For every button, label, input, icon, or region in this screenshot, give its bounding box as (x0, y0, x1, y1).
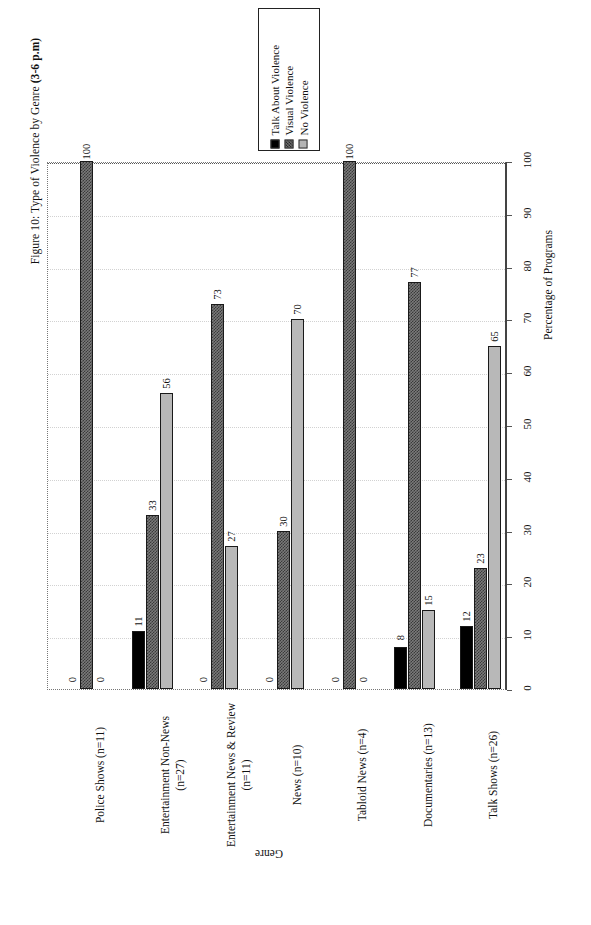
category-label-line: (n=27) (173, 700, 188, 850)
tick-mark-20 (507, 584, 512, 585)
bar-5-2 (422, 610, 435, 689)
category-label-line: (n=11) (239, 700, 254, 850)
value-tick-label-50: 50 (521, 413, 533, 435)
bar-2-2 (225, 546, 238, 689)
bar-0-1 (80, 161, 93, 689)
bar-1-0 (132, 631, 145, 689)
value-tick-label-70: 70 (521, 307, 533, 329)
legend-item-1: Visual Violence (283, 11, 295, 148)
bar-value-label-6-1: 23 (475, 547, 486, 570)
bar-value-label-1-1: 33 (147, 494, 158, 517)
bar-value-label-6-2: 65 (489, 325, 500, 348)
category-label-0: Police Shows (n=11) (93, 700, 108, 850)
category-label-line: Tabloid News (n=4) (355, 700, 370, 850)
bar-value-label-4-1: 100 (344, 140, 355, 163)
legend-swatch-icon (270, 139, 279, 148)
gridline-40 (48, 480, 505, 481)
category-label-line: Entertainment News & Review (224, 700, 239, 850)
legend-item-label: No Violence (297, 80, 309, 135)
bar-3-1 (277, 531, 290, 689)
legend-item-label: Visual Violence (283, 65, 295, 135)
value-tick-label-60: 60 (521, 360, 533, 382)
figure-caption-timeslot: (3-6 p.m) (29, 38, 41, 84)
tick-mark-80 (507, 268, 512, 269)
value-tick-label-80: 80 (521, 255, 533, 277)
tick-mark-30 (507, 532, 512, 533)
legend-items: Talk About ViolenceVisual ViolenceNo Vio… (269, 11, 310, 148)
bar-value-label-1-2: 56 (161, 372, 172, 395)
bar-2-1 (211, 304, 224, 689)
gridline-60 (48, 374, 505, 375)
bar-5-0 (394, 647, 407, 689)
bar-5-1 (408, 282, 421, 689)
gridline-70 (48, 321, 505, 322)
figure-caption-text: Figure 10: Type of Violence by Genre (29, 83, 41, 264)
gridline-80 (48, 269, 505, 270)
gridline-100 (48, 163, 505, 164)
category-axis-title: Genre (255, 848, 283, 860)
tick-mark-60 (507, 373, 512, 374)
category-label-line: News (n=10) (290, 700, 305, 850)
bar-value-label-5-0: 8 (395, 626, 406, 649)
value-tick-label-30: 30 (521, 519, 533, 541)
category-label-4: Tabloid News (n=4) (355, 700, 370, 850)
tick-mark-90 (507, 215, 512, 216)
bar-value-label-2-0: 0 (198, 668, 209, 691)
bar-1-2 (160, 393, 173, 689)
tick-mark-40 (507, 479, 512, 480)
value-tick-label-100: 100 (521, 149, 533, 171)
value-tick-label-90: 90 (521, 202, 533, 224)
bar-value-label-0-2: 0 (95, 668, 106, 691)
value-tick-label-10: 10 (521, 624, 533, 646)
legend-item-2: No Violence (297, 11, 309, 148)
bar-6-2 (488, 346, 501, 689)
bar-value-label-3-2: 70 (292, 298, 303, 321)
bar-value-label-1-0: 11 (133, 610, 144, 633)
bar-value-label-2-2: 27 (226, 525, 237, 548)
category-label-1: Entertainment Non-News(n=27) (158, 700, 188, 850)
bar-value-label-5-1: 77 (409, 261, 420, 284)
category-label-line: Entertainment Non-News (158, 700, 173, 850)
tick-mark-50 (507, 426, 512, 427)
gridline-90 (48, 216, 505, 217)
bar-value-label-0-1: 100 (81, 140, 92, 163)
legend-item-label: Talk About Violence (269, 44, 281, 135)
bar-1-1 (146, 515, 159, 689)
category-label-line: Police Shows (n=11) (93, 700, 108, 850)
category-label-line: Talk Shows (n=26) (486, 700, 501, 850)
tick-mark-0 (507, 690, 512, 691)
category-label-2: Entertainment News & Review(n=11) (224, 700, 254, 850)
tick-mark-70 (507, 320, 512, 321)
value-tick-label-20: 20 (521, 571, 533, 593)
value-axis-title: Percentage of Programs (542, 200, 554, 370)
tick-mark-10 (507, 637, 512, 638)
bar-value-label-2-1: 73 (212, 283, 223, 306)
bar-value-label-0-0: 0 (67, 668, 78, 691)
bar-value-label-5-2: 15 (423, 589, 434, 612)
category-label-line: Documentaries (n=13) (421, 700, 436, 850)
figure-caption: Figure 10: Type of Violence by Genre (3-… (29, 36, 41, 266)
tick-mark-100 (507, 162, 512, 163)
bar-4-1 (343, 161, 356, 689)
category-label-3: News (n=10) (290, 700, 305, 850)
plot-area: 0100011335607327030700100087715122365 (47, 162, 506, 690)
legend-swatch-icon (299, 139, 308, 148)
category-label-6: Talk Shows (n=26) (486, 700, 501, 850)
bar-value-label-4-0: 0 (330, 668, 341, 691)
value-tick-label-40: 40 (521, 466, 533, 488)
bar-3-2 (291, 319, 304, 689)
bar-value-label-6-0: 12 (461, 605, 472, 628)
bar-6-1 (474, 568, 487, 689)
chart-legend: Talk About ViolenceVisual ViolenceNo Vio… (258, 8, 320, 151)
bar-value-label-3-0: 0 (264, 668, 275, 691)
bar-6-0 (460, 626, 473, 689)
category-label-5: Documentaries (n=13) (421, 700, 436, 850)
gridline-50 (48, 427, 505, 428)
bar-value-label-4-2: 0 (358, 668, 369, 691)
legend-item-0: Talk About Violence (269, 11, 281, 148)
value-tick-label-0: 0 (521, 677, 533, 699)
legend-swatch-icon (285, 139, 294, 148)
bar-value-label-3-1: 30 (278, 510, 289, 533)
